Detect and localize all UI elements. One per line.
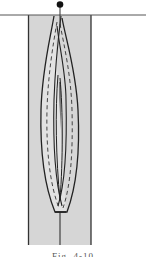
figure-caption: Fig. 4-10	[0, 250, 146, 257]
sewing-diagram	[0, 0, 146, 257]
pin-head-icon	[57, 1, 64, 8]
